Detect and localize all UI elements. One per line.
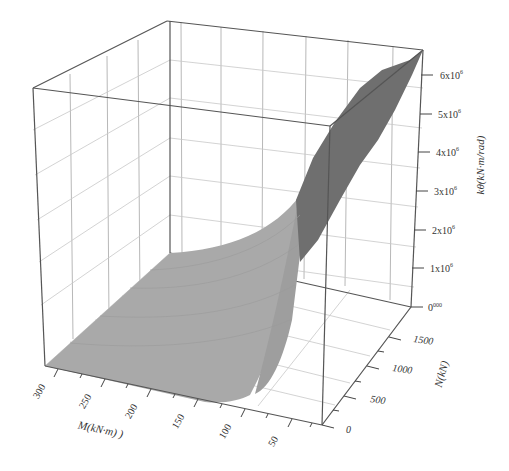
surface-chart: 0000 1x106 2x106 3x106 4x106 5x106 6x106…: [0, 0, 509, 471]
surface: [45, 50, 423, 403]
z-tick-6: 6x106: [440, 69, 463, 81]
z-tick-3: 3x106: [434, 185, 457, 197]
m-tick-300: 300: [30, 382, 47, 400]
z-tick-0: 0000: [428, 302, 442, 313]
n-tick-0: 0: [346, 424, 351, 435]
m-axis-title: M(kN·m) ): [76, 418, 125, 441]
m-tick-200: 200: [122, 402, 139, 420]
m-tick-250: 250: [76, 392, 93, 410]
n-axis-title: N(kN): [432, 359, 452, 390]
z-tick-1: 1x106: [430, 262, 453, 274]
z-axis-title: kθ(kN·m/rad): [474, 135, 487, 194]
m-tick-50: 50: [266, 434, 281, 448]
z-tick-2: 2x106: [432, 224, 455, 236]
z-tick-4: 4x106: [436, 146, 459, 158]
n-tick-1500: 1500: [413, 333, 434, 347]
z-tick-5: 5x106: [438, 108, 461, 120]
n-tick-1000: 1000: [392, 362, 413, 376]
n-axis: 0 500 1000 1500 N(kN): [322, 333, 451, 435]
z-axis: 0000 1x106 2x106 3x106 4x106 5x106 6x106…: [411, 69, 487, 313]
m-tick-100: 100: [216, 422, 233, 440]
m-tick-150: 150: [169, 412, 186, 430]
n-tick-500: 500: [370, 393, 386, 406]
